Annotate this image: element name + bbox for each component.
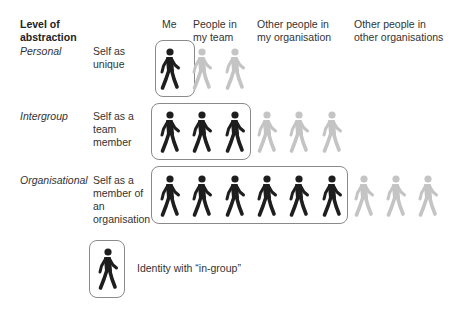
out-group-walking-person-icon — [285, 110, 311, 154]
out-group-walking-person-icon — [221, 47, 247, 91]
out-group-walking-person-icon — [253, 110, 279, 154]
row-description-intergroup: Self as a team member — [93, 110, 143, 149]
in-group-walking-person-icon — [285, 174, 311, 218]
column-header-other-organisations: Other people in other organisations — [354, 18, 449, 44]
column-header-me: Me — [162, 18, 177, 31]
in-group-walking-person-icon — [156, 47, 182, 91]
in-group-walking-person-icon — [188, 110, 214, 154]
in-group-walking-person-icon — [156, 110, 182, 154]
row-level-organisational: Organisational — [20, 174, 88, 187]
column-header-team: People in my team — [193, 18, 253, 44]
out-group-walking-person-icon — [318, 110, 344, 154]
in-group-walking-person-icon — [221, 110, 247, 154]
in-group-walking-person-icon — [156, 174, 182, 218]
out-group-walking-person-icon — [350, 174, 376, 218]
row-description-organisational: Self as a member of an organisation — [93, 174, 151, 226]
out-group-walking-person-icon — [414, 174, 440, 218]
in-group-walking-person-icon — [221, 174, 247, 218]
out-group-walking-person-icon — [188, 47, 214, 91]
in-group-walking-person-icon — [253, 174, 279, 218]
column-header-organisation: Other people in my organisation — [257, 18, 342, 44]
row-description-personal: Self as unique — [93, 45, 148, 71]
out-group-walking-person-icon — [382, 174, 408, 218]
column-header-level: Level of abstraction — [20, 18, 90, 44]
row-level-personal: Personal — [20, 45, 61, 58]
row-level-intergroup: Intergroup — [20, 110, 68, 123]
in-group-walking-person-icon — [188, 174, 214, 218]
legend-walking-person-icon — [94, 247, 120, 291]
legend-label: Identity with “in-group” — [137, 262, 241, 275]
in-group-walking-person-icon — [318, 174, 344, 218]
